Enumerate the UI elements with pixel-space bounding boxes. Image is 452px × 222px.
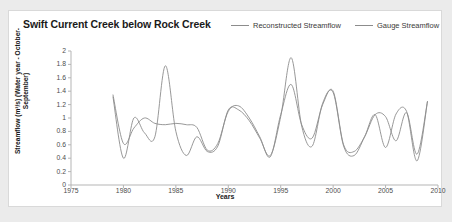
axis-lines	[71, 51, 438, 185]
data-series	[113, 58, 428, 161]
plot-area	[9, 11, 443, 208]
x-axis-title: Years	[9, 193, 441, 200]
series-line-gauge-streamflow	[113, 58, 428, 161]
chart-card: Swift Current Creek below Rock Creek Rec…	[8, 10, 442, 207]
